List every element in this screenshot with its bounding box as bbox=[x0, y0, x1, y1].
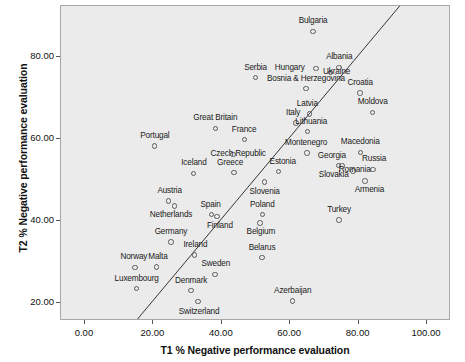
data-point-label: Spain bbox=[201, 200, 221, 209]
data-point-label: Croatia bbox=[348, 78, 373, 87]
data-point-label: Ireland bbox=[183, 240, 207, 249]
data-point[interactable] bbox=[195, 299, 200, 304]
identity-reference-line bbox=[64, 6, 445, 319]
data-point[interactable] bbox=[242, 137, 247, 142]
data-point-label: Belarus bbox=[249, 243, 276, 252]
data-point[interactable] bbox=[357, 90, 362, 95]
data-point[interactable] bbox=[166, 198, 171, 203]
data-point[interactable] bbox=[134, 286, 139, 291]
reference-line-layer bbox=[61, 6, 449, 319]
data-point-label: Denmark bbox=[175, 276, 207, 285]
y-tick-label: 60.00 bbox=[8, 132, 54, 143]
data-point[interactable] bbox=[305, 129, 310, 134]
data-point-label: Macedonia bbox=[341, 137, 380, 146]
data-point-label: Switzerland bbox=[179, 307, 220, 316]
data-point-label: Latvia bbox=[297, 99, 318, 108]
data-point[interactable] bbox=[132, 265, 137, 270]
x-tick-label: 100.00 bbox=[396, 327, 456, 338]
data-point-label: Portugal bbox=[140, 131, 169, 140]
data-point-label: Poland bbox=[250, 200, 275, 209]
scatter-plot-figure: T2 % Negative performance evaluation T1 … bbox=[0, 0, 465, 362]
data-point-label: Turkey bbox=[327, 205, 351, 214]
data-point-label: Luxembourg bbox=[115, 274, 159, 283]
x-tick-mark bbox=[289, 320, 290, 324]
x-tick-mark bbox=[152, 320, 153, 324]
data-point-label: Greece bbox=[217, 158, 243, 167]
plot-area: BulgariaAlbaniaHungarySerbiaUkraineBosni… bbox=[60, 5, 450, 320]
x-tick-label: 20.00 bbox=[122, 327, 182, 338]
data-point[interactable] bbox=[192, 252, 197, 257]
data-point-label: Czech Republic bbox=[211, 149, 266, 158]
data-point[interactable] bbox=[370, 110, 375, 115]
data-point-label: Estonia bbox=[270, 157, 296, 166]
data-point-label: Slovakia bbox=[319, 170, 349, 179]
data-point[interactable] bbox=[231, 170, 236, 175]
y-tick-label: 20.00 bbox=[8, 296, 54, 307]
x-tick-label: 60.00 bbox=[259, 327, 319, 338]
data-point[interactable] bbox=[212, 272, 217, 277]
data-point[interactable] bbox=[304, 150, 309, 155]
x-tick-label: 40.00 bbox=[191, 327, 251, 338]
x-tick-mark bbox=[358, 320, 359, 324]
data-point[interactable] bbox=[188, 288, 193, 293]
data-point[interactable] bbox=[191, 171, 196, 176]
x-tick-mark bbox=[84, 320, 85, 324]
data-point-label: Netherlands bbox=[150, 210, 193, 219]
data-point-label: Moldova bbox=[358, 97, 388, 106]
data-point[interactable] bbox=[214, 214, 219, 219]
data-point[interactable] bbox=[290, 298, 295, 303]
data-point-label: Georgia bbox=[318, 151, 346, 160]
data-point[interactable] bbox=[276, 169, 281, 174]
data-point[interactable] bbox=[362, 178, 367, 183]
x-tick-label: 80.00 bbox=[328, 327, 388, 338]
x-tick-mark bbox=[221, 320, 222, 324]
data-point-label: Norway bbox=[120, 252, 147, 261]
data-point-label: Austria bbox=[157, 186, 181, 195]
data-point-label: Armenia bbox=[355, 185, 384, 194]
x-tick-mark bbox=[426, 320, 427, 324]
data-point[interactable] bbox=[370, 167, 375, 172]
data-point-label: Serbia bbox=[244, 63, 267, 72]
x-tick-label: 0.00 bbox=[54, 327, 114, 338]
data-point[interactable] bbox=[168, 239, 173, 244]
data-point[interactable] bbox=[259, 255, 264, 260]
data-point-label: Bulgaria bbox=[299, 16, 328, 25]
data-point-label: Hungary bbox=[275, 63, 305, 72]
data-point-label: Great Britain bbox=[193, 113, 237, 122]
data-point-label: Finland bbox=[207, 221, 233, 230]
data-point[interactable] bbox=[152, 143, 157, 148]
data-point[interactable] bbox=[262, 179, 267, 184]
data-point-label: Germany bbox=[155, 227, 188, 236]
data-point-label: Belgium bbox=[247, 227, 276, 236]
y-axis-title: T2 % Negative performance evaluation bbox=[17, 43, 29, 273]
data-point-label: Iceland bbox=[181, 158, 206, 167]
data-point-label: Albania bbox=[326, 52, 352, 61]
data-point[interactable] bbox=[339, 163, 344, 168]
data-point[interactable] bbox=[257, 220, 262, 225]
data-point[interactable] bbox=[172, 203, 177, 208]
data-point[interactable] bbox=[253, 75, 258, 80]
y-tick-label: 80.00 bbox=[8, 50, 54, 61]
data-point[interactable] bbox=[154, 264, 159, 269]
data-point-label: France bbox=[232, 125, 257, 134]
data-point-label: Montenegro bbox=[285, 138, 327, 147]
data-point[interactable] bbox=[303, 86, 308, 91]
data-point[interactable] bbox=[310, 29, 315, 34]
data-point-label: Bosnia & Herzegovina bbox=[267, 74, 345, 83]
data-point-label: Lithuania bbox=[295, 117, 327, 126]
x-axis-title: T1 % Negative performance evaluation bbox=[60, 344, 450, 356]
data-point-label: Malta bbox=[148, 252, 167, 261]
y-tick-label: 40.00 bbox=[8, 214, 54, 225]
data-point[interactable] bbox=[213, 126, 218, 131]
data-point[interactable] bbox=[313, 66, 318, 71]
data-point-label: Sweden bbox=[201, 259, 230, 268]
data-point[interactable] bbox=[336, 217, 341, 222]
data-point[interactable] bbox=[260, 212, 265, 217]
data-point-label: Slovenia bbox=[250, 187, 280, 196]
data-point-label: Azerbaijan bbox=[274, 286, 311, 295]
data-point-label: Russia bbox=[362, 154, 386, 163]
